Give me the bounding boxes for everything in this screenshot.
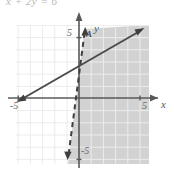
x-axis-label: x — [161, 98, 166, 110]
x-tick-label-5: 5 — [142, 100, 147, 111]
y-tick-label-5: 5 — [67, 27, 72, 38]
graph-screenshot: x + 2y = 6 — [0, 0, 174, 171]
y-axis-label: y — [94, 22, 99, 34]
x-tick-label-neg5: -5 — [10, 100, 18, 111]
region-marker-label: A — [86, 29, 92, 39]
y-axis-arrowhead — [76, 12, 83, 21]
y-tick-label-neg5: -5 — [81, 145, 89, 156]
x-axis-arrowhead — [150, 95, 158, 102]
